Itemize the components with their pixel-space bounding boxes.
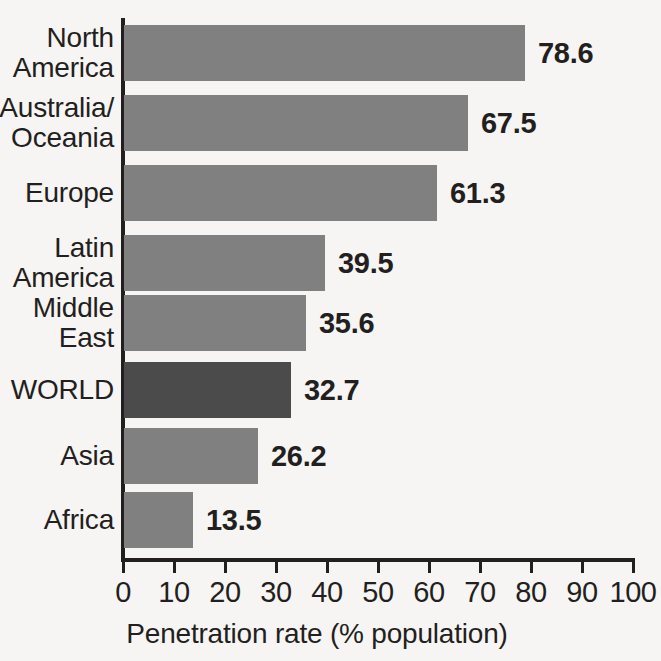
x-axis-title: Penetration rate (% population) [0,620,634,648]
bar-row: Africa13.5 [0,492,634,548]
category-label: Middle East [0,293,114,353]
x-tick-mark [479,558,482,573]
plot-area: North America78.6Australia/ Oceania67.5E… [0,0,634,560]
bar[interactable] [124,295,306,351]
bar-value-label: 35.6 [319,309,374,338]
x-tick-mark [275,558,278,573]
x-tick-label: 100 [602,578,661,607]
x-tick-mark [224,558,227,573]
category-label: Africa [0,505,114,535]
category-label: Asia [0,441,114,471]
bar[interactable] [124,492,193,548]
bar[interactable] [124,95,468,151]
x-axis: 0102030405060708090100 Penetration rate … [0,558,634,659]
x-tick-mark [428,558,431,573]
bar-value-label: 13.5 [206,506,261,535]
bar-row: North America78.6 [0,25,634,81]
bar-row: Europe61.3 [0,165,634,221]
x-tick-mark [377,558,380,573]
bar-row: Latin America39.5 [0,235,634,291]
bar-value-label: 39.5 [338,249,393,278]
bar[interactable] [124,428,258,484]
x-tick-mark [632,558,635,573]
category-label: Latin America [0,233,114,293]
x-tick-mark [326,558,329,573]
bar-value-label: 26.2 [271,442,326,471]
bar-row: Asia26.2 [0,428,634,484]
bar-value-label: 32.7 [304,376,359,405]
x-tick-mark [122,558,125,573]
bar-row: WORLD32.7 [0,362,634,418]
category-label: Europe [0,178,114,208]
bar-row: Middle East35.6 [0,295,634,351]
category-label: WORLD [0,375,114,405]
bar[interactable] [124,165,437,221]
x-tick-mark [581,558,584,573]
x-tick-mark [173,558,176,573]
bar-value-label: 61.3 [450,179,505,208]
category-label: North America [0,23,114,83]
bar[interactable] [124,235,325,291]
bar-value-label: 78.6 [538,39,593,68]
bar-row: Australia/ Oceania67.5 [0,95,634,151]
bar-highlighted[interactable] [124,362,291,418]
bar-value-label: 67.5 [481,109,536,138]
category-label: Australia/ Oceania [0,93,114,153]
bar[interactable] [124,25,525,81]
x-tick-mark [530,558,533,573]
